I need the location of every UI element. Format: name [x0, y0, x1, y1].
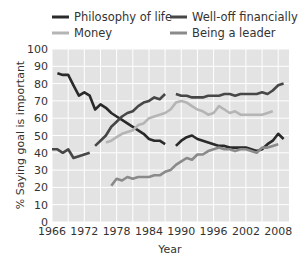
x-axis-label: Year: [157, 243, 182, 256]
x-tick-label: 2008: [264, 225, 292, 238]
legend-item: Philosophy of life: [52, 10, 172, 24]
y-tick-label: 20: [34, 181, 48, 194]
legend-item: Well-off financially: [170, 10, 298, 24]
legend: Philosophy of lifeWell-off financiallyMo…: [52, 10, 298, 40]
x-tick-label: 1984: [135, 225, 163, 238]
x-tick-label: 1990: [167, 225, 195, 238]
y-tick-label: 100: [27, 43, 48, 56]
line-chart: Philosophy of lifeWell-off financiallyMo…: [0, 0, 307, 264]
x-tick-label: 1972: [70, 225, 98, 238]
legend-label: Well-off financially: [192, 10, 298, 24]
x-tick-label: 1996: [200, 225, 228, 238]
x-tick-label: 2002: [232, 225, 260, 238]
y-tick-label: 10: [34, 199, 48, 212]
y-tick-label: 30: [34, 164, 48, 177]
legend-label: Being a leader: [192, 26, 276, 40]
y-tick-label: 80: [34, 78, 48, 91]
legend-item: Being a leader: [170, 26, 276, 40]
x-tick-label: 1978: [103, 225, 131, 238]
y-axis-label: % Saying goal is important: [14, 60, 27, 209]
x-tick-label: 1966: [38, 225, 66, 238]
y-tick-label: 40: [34, 147, 48, 160]
y-tick-label: 90: [34, 60, 48, 73]
legend-label: Philosophy of life: [74, 10, 172, 24]
legend-label: Money: [74, 26, 112, 40]
y-tick-label: 70: [34, 95, 48, 108]
x-axis-ticks: 19661972197819841990199620022008: [38, 225, 292, 238]
y-tick-label: 60: [34, 112, 48, 125]
legend-item: Money: [52, 26, 112, 40]
y-tick-label: 50: [34, 130, 48, 143]
y-axis-ticks: 0102030405060708090100: [27, 43, 48, 229]
